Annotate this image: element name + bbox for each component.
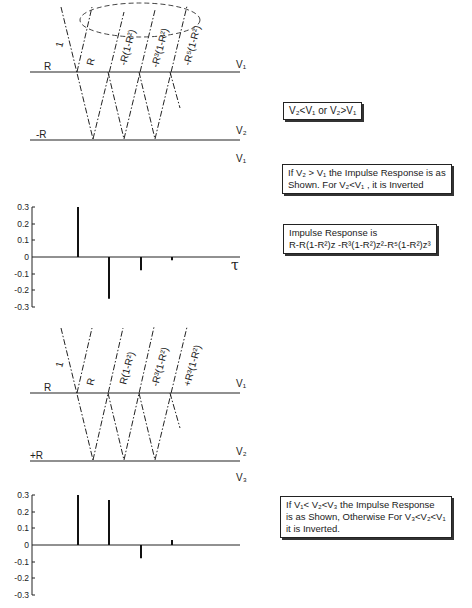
reflection-group-ellipse [80,3,200,37]
ray-label-r: R [84,57,96,67]
chart2-ytick: 0 [24,540,29,550]
chart2-ytick: -0.2 [14,573,29,583]
ray-label-3: -R³(1-R²) [149,27,170,68]
label-v2: V₂ [236,125,247,136]
note-inversion-rule: If V₂ > V₁ the Impulse Response is as Sh… [282,164,452,194]
note-impulse-response-formula: Impulse Response is R-R(1-R²)z -R³(1-R²)… [283,224,437,254]
ray-label-4: -R⁵(1-R²) [181,24,202,66]
chart2-ytick: 0.3 [17,490,29,500]
note-velocity-condition: V₂<V₁ or V₂>V₁ [283,102,362,120]
chart1-ytick: -0.3 [14,302,29,312]
ray-label-incident: 1 [53,40,65,49]
label-v3: V₃ [236,472,247,483]
chart1-spikes [78,207,172,299]
label-v2: V₂ [236,446,247,457]
chart1-ytick: -0.2 [14,285,29,295]
chart2-ytick: 0.2 [17,507,29,517]
label-v1: V₁ [236,378,247,389]
bottom-diagram-labels: R +R V₁ V₂ V₃ 1 R R(1-R²) -R³(1-R²) +R³(… [30,344,247,483]
chart1-ytick: -0.1 [14,269,29,279]
chart2-spikes [78,495,172,558]
chart2-ytick: -0.3 [14,590,29,600]
chart2-ytick: 0.1 [17,523,29,533]
note-three-layer-rule: If V₁< V₂<V₃ the Impulse Response is as … [280,496,452,538]
label-lower-r: -R [36,129,47,140]
label-v1: V₁ [236,59,247,70]
top-diagram-labels: R -R V₁ V₂ V₁ 1 R -R(1-R²) -R³(1-R²) -R⁵… [36,24,247,164]
label-upper-r: R [44,61,51,72]
chart2-ytick: -0.1 [14,557,29,567]
label-lower-r: +R [30,450,43,461]
ray-label-2: -R(1-R²) [117,28,137,66]
impulse-chart-2: 0.3 0.2 0.1 0 -0.1 -0.2 -0.3 [14,490,240,600]
impulse-chart-1: 0.3 0.2 0.1 0 -0.1 -0.2 -0.3 τ [14,202,240,312]
bottom-ray-diagram [30,327,240,461]
ray-label-incident: 1 [53,360,65,369]
chart1-ytick: 0.1 [17,235,29,245]
chart1-ytick: 0 [24,252,29,262]
label-upper-r: R [44,382,51,393]
label-v1-lower: V₁ [236,153,247,164]
chart1-ytick: 0.3 [17,202,29,212]
ray-label-2: R(1-R²) [117,350,136,385]
ray-label-r: R [84,377,96,387]
ray-label-3: -R³(1-R²) [149,346,170,387]
ray-label-4: +R³(1-R²) [181,344,203,388]
top-ray-diagram [30,3,240,140]
chart1-x-label-tau: τ [231,257,239,273]
chart1-ytick: 0.2 [17,219,29,229]
